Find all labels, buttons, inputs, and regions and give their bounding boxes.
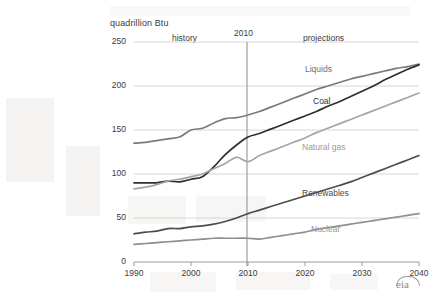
x-tick-label: 2020 — [285, 268, 325, 278]
series-line-coal — [134, 65, 419, 183]
y-tick-label: 0 — [102, 256, 126, 266]
series-label-natural-gas: Natural gas — [302, 142, 345, 152]
y-tick-label: 50 — [102, 212, 126, 222]
y-tick-label: 200 — [102, 80, 126, 90]
x-tick-label: 2030 — [342, 268, 382, 278]
x-tick-label: 2000 — [171, 268, 211, 278]
data-series-group — [134, 64, 419, 244]
series-label-nuclear: Nuclear — [311, 224, 340, 234]
y-tick-label: 100 — [102, 168, 126, 178]
eia-logo: eia — [396, 278, 409, 290]
y-tick-label: 250 — [102, 36, 126, 46]
x-tick-label: 2010 — [228, 268, 268, 278]
x-tick-label: 1990 — [114, 268, 154, 278]
y-tick-label: 150 — [102, 124, 126, 134]
series-label-renewables: Renewables — [302, 188, 349, 198]
series-line-natural-gas — [134, 93, 419, 189]
plot-area — [0, 0, 436, 303]
gridlines — [134, 42, 419, 218]
x-tick-marks — [134, 262, 419, 266]
series-label-liquids: Liquids — [305, 64, 332, 74]
energy-consumption-chart: quadrillion Btu history 2010 projections… — [0, 0, 436, 303]
eia-logo-arc — [396, 276, 420, 286]
series-label-coal: Coal — [313, 96, 330, 106]
series-line-renewables — [134, 156, 419, 234]
series-line-liquids — [134, 64, 419, 143]
